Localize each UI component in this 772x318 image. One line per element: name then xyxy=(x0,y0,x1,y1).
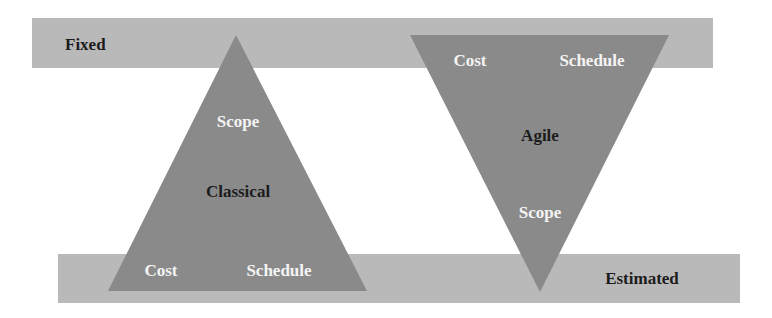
fixed-label: Fixed xyxy=(65,35,106,55)
classical-schedule-label: Schedule xyxy=(246,261,311,281)
classical-title: Classical xyxy=(206,182,270,202)
agile-scope-label: Scope xyxy=(519,203,562,223)
classical-cost-label: Cost xyxy=(144,261,177,281)
estimated-label: Estimated xyxy=(605,269,679,289)
classical-triangle xyxy=(108,35,367,291)
agile-schedule-label: Schedule xyxy=(559,51,624,71)
classical-scope-label: Scope xyxy=(217,112,260,132)
agile-cost-label: Cost xyxy=(453,51,486,71)
iron-triangle-diagram: Fixed Estimated Scope Classical Cost Sch… xyxy=(0,0,772,318)
agile-title: Agile xyxy=(521,126,559,146)
agile-triangle xyxy=(410,35,669,292)
